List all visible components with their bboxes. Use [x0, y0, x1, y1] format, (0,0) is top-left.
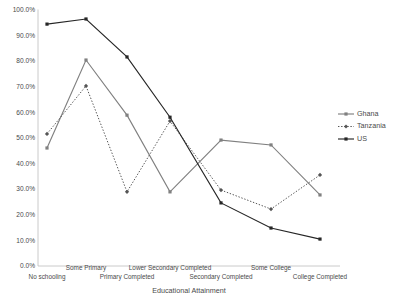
y-tick-label: 30.0%	[16, 185, 35, 192]
y-axis-tick-labels: 0.0%10.0%20.0%30.0%40.0%50.0%60.0%70.0%8…	[13, 6, 36, 270]
legend-label: Ghana	[357, 109, 379, 118]
data-point-us-0	[45, 23, 48, 26]
y-tick-label: 20.0%	[16, 211, 35, 218]
data-point-tanzania-0	[45, 132, 49, 136]
legend-label: Tanzania	[357, 121, 386, 130]
data-point-tanzania-6	[318, 173, 322, 177]
x-axis-title: Educational Attainment	[152, 286, 226, 295]
data-point-ghana-5	[269, 143, 272, 146]
data-point-ghana-1	[84, 58, 87, 61]
legend-marker-us	[344, 137, 347, 140]
data-point-us-2	[125, 55, 128, 58]
legend-item-ghana[interactable]: Ghana	[338, 109, 379, 118]
series-line-tanzania	[47, 86, 320, 209]
data-point-us-4	[219, 201, 222, 204]
y-tick-label: 90.0%	[16, 32, 35, 39]
x-tick-label: Primary Completed	[100, 273, 155, 281]
x-tick-label: Lower Secondary Completed	[129, 264, 212, 272]
legend-marker-tanzania	[344, 124, 348, 128]
data-point-ghana-6	[318, 193, 321, 196]
data-point-ghana-2	[125, 114, 128, 117]
y-tick-label: 60.0%	[16, 109, 35, 116]
series-us	[45, 17, 321, 240]
legend-item-tanzania[interactable]: Tanzania	[338, 121, 386, 130]
y-tick-label: 80.0%	[16, 57, 35, 64]
chart-container: 0.0%10.0%20.0%30.0%40.0%50.0%60.0%70.0%8…	[0, 0, 401, 298]
axis-lines	[38, 10, 340, 267]
data-point-tanzania-5	[269, 207, 273, 211]
x-tick-label: College Completed	[293, 273, 348, 281]
y-tick-label: 0.0%	[20, 262, 35, 269]
legend-item-us[interactable]: US	[338, 134, 367, 143]
x-tick-label: No schooling	[29, 273, 66, 281]
series-line-us	[47, 19, 320, 239]
x-tick-label: Secondary Completed	[189, 273, 253, 281]
y-tick-label: 70.0%	[16, 83, 35, 90]
y-tick-label: 50.0%	[16, 134, 35, 141]
series-ghana	[45, 58, 321, 196]
x-tick-label: Some Primary	[66, 264, 107, 272]
legend-label: US	[357, 134, 367, 143]
data-point-ghana-0	[45, 146, 48, 149]
y-tick-label: 40.0%	[16, 160, 35, 167]
y-tick-label: 100.0%	[13, 6, 36, 13]
data-point-us-5	[269, 226, 272, 229]
series-layer	[45, 17, 322, 240]
series-tanzania	[45, 84, 322, 211]
line-chart: 0.0%10.0%20.0%30.0%40.0%50.0%60.0%70.0%8…	[0, 0, 401, 298]
data-point-ghana-4	[219, 138, 222, 141]
data-point-us-6	[318, 237, 321, 240]
data-point-ghana-3	[168, 190, 171, 193]
data-point-us-3	[168, 116, 171, 119]
legend: GhanaTanzaniaUS	[338, 109, 386, 143]
legend-marker-ghana	[344, 112, 347, 115]
data-point-us-1	[84, 17, 87, 20]
y-tick-label: 10.0%	[16, 237, 35, 244]
x-tick-label: Some College	[251, 264, 292, 272]
series-line-ghana	[47, 60, 320, 195]
